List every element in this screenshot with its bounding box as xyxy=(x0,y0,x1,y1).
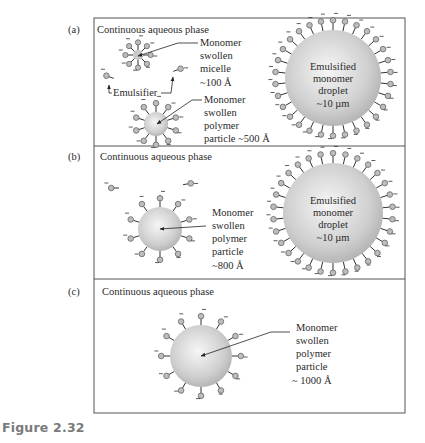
free-emulsifier-a-0 xyxy=(101,69,114,78)
svg-text:monomer: monomer xyxy=(313,207,354,218)
emulsifier-label: Emulsifier xyxy=(113,87,158,98)
svg-text:droplet: droplet xyxy=(318,85,348,96)
svg-text:swollen: swollen xyxy=(200,50,233,61)
panel-label-a: (a) xyxy=(68,24,80,36)
polymer-particle-label-b: Monomer swollen polymer particle ~800 Å xyxy=(212,207,254,271)
micelle-label-a: Monomer swollen micelle ~100 Å xyxy=(200,37,242,88)
panel-label-c: (c) xyxy=(68,286,80,298)
emulsion-polymerization-diagram: (a) (b) (c) Continuous aqueous phase Con… xyxy=(0,0,425,443)
polymer-particle-label-c: Monomer swollen polymer particle ~ 1000 … xyxy=(292,322,338,386)
free-emulsifier-a-1 xyxy=(173,66,188,72)
svg-text:swollen: swollen xyxy=(212,220,245,231)
svg-text:polymer: polymer xyxy=(212,233,247,244)
free-emulsifier-b-1 xyxy=(183,181,198,187)
svg-text:Emulsified: Emulsified xyxy=(310,61,357,72)
svg-text:monomer: monomer xyxy=(313,73,354,84)
svg-text:swollen: swollen xyxy=(204,107,237,118)
svg-text:micelle: micelle xyxy=(200,63,231,74)
figure-caption: Figure 2.32 xyxy=(2,420,85,435)
svg-text:droplet: droplet xyxy=(318,219,348,230)
svg-text:particle ~500 Å: particle ~500 Å xyxy=(204,133,270,144)
svg-text:~ 1000 Å: ~ 1000 Å xyxy=(292,375,332,386)
micelle-a xyxy=(119,36,157,70)
svg-text:particle: particle xyxy=(212,246,244,257)
svg-text:~10 µm: ~10 µm xyxy=(316,98,349,109)
panel-label-b: (b) xyxy=(68,151,81,163)
polymer-particle-a xyxy=(129,96,184,147)
emulsifier-arrow-left xyxy=(109,85,112,93)
phase-label-a: Continuous aqueous phase xyxy=(97,24,209,35)
phase-label-c: Continuous aqueous phase xyxy=(102,286,214,297)
svg-text:polymer: polymer xyxy=(204,120,239,131)
emulsifier-arrow-right xyxy=(161,77,173,93)
polymer-particle-label-a: Monomer swollen polymer particle ~500 Å xyxy=(204,94,270,144)
free-emulsifier-b-0 xyxy=(104,183,119,191)
svg-text:swollen: swollen xyxy=(296,335,329,346)
svg-text:~10 µm: ~10 µm xyxy=(316,232,349,243)
svg-text:polymer: polymer xyxy=(296,348,331,359)
svg-text:Monomer: Monomer xyxy=(204,94,246,105)
svg-text:Emulsified: Emulsified xyxy=(310,195,357,206)
phase-label-b: Continuous aqueous phase xyxy=(100,151,212,162)
svg-text:~800 Å: ~800 Å xyxy=(212,260,244,271)
polymer-particle-c xyxy=(154,309,247,398)
svg-text:Monomer: Monomer xyxy=(212,207,254,218)
svg-text:particle: particle xyxy=(296,361,328,372)
svg-text:Monomer: Monomer xyxy=(200,37,242,48)
svg-text:~100 Å: ~100 Å xyxy=(200,77,232,88)
svg-text:Monomer: Monomer xyxy=(296,322,338,333)
